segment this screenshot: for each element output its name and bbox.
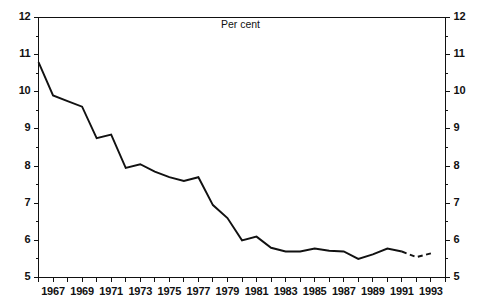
y-axis-label-right: 7: [454, 196, 460, 208]
y-axis-label-left: 10: [0, 84, 31, 96]
chart-title: Per cent: [0, 18, 481, 30]
y-axis-label-left: 6: [0, 233, 31, 245]
x-axis-label: 1993: [409, 285, 453, 297]
y-axis-label-left: 11: [0, 47, 31, 59]
y-axis-label-right: 10: [454, 84, 466, 96]
y-axis-label-right: 12: [454, 10, 466, 22]
y-axis-label-left: 12: [0, 10, 31, 22]
y-axis-label-right: 5: [454, 270, 460, 282]
y-axis-label-right: 9: [454, 121, 460, 133]
y-axis-label-right: 8: [454, 159, 460, 171]
plot-frame: [39, 18, 446, 278]
plot-area: [0, 0, 481, 306]
y-axis-label-right: 6: [454, 233, 460, 245]
y-axis-label-right: 11: [454, 47, 465, 59]
y-axis-label-left: 5: [0, 270, 31, 282]
series-line-solid: [39, 62, 402, 259]
y-axis-label-left: 8: [0, 159, 31, 171]
y-axis-label-left: 9: [0, 121, 31, 133]
series-line-projected: [402, 252, 431, 258]
axis-ticks: [34, 18, 450, 282]
y-axis-label-left: 7: [0, 196, 31, 208]
chart-figure: Per cent 56789101112 56789101112 1967196…: [0, 0, 481, 306]
data-series: [39, 62, 431, 259]
